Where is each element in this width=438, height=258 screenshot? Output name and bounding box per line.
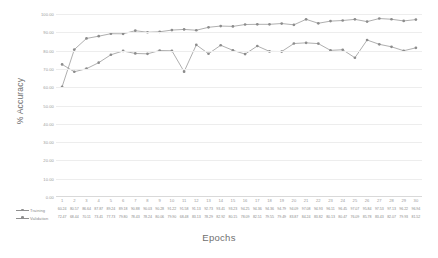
line-marker-icon — [16, 216, 29, 221]
data-point — [268, 23, 271, 26]
legend-label-training: Training — [30, 208, 45, 213]
data-point — [73, 70, 76, 73]
validation-line — [62, 40, 416, 72]
x-axis-tick-labels: 1234567891011121314151617181920212223242… — [56, 198, 422, 206]
table-cell: 82.51 — [253, 215, 262, 219]
table-cell: 95.84 — [363, 207, 372, 211]
x-tick-label: 29 — [401, 198, 406, 203]
table-cell: 92.73 — [204, 207, 213, 211]
table-cell: 96.45 — [338, 207, 347, 211]
data-point — [110, 53, 113, 56]
data-point — [317, 42, 320, 45]
table-cell: 79.90 — [168, 215, 177, 219]
data-point — [195, 29, 198, 32]
y-tick-label: 30.00 — [43, 140, 54, 145]
data-point — [305, 41, 308, 44]
y-tick-label: 70.00 — [43, 66, 54, 71]
x-tick-label: 19 — [279, 198, 284, 203]
y-tick-label: 20.00 — [43, 158, 54, 163]
y-tick-label: 60.00 — [43, 85, 54, 90]
table-row-validation: Validation 72.4768.4470.1173.4177.7379.8… — [16, 215, 422, 222]
y-axis-tick-labels: 100.0090.0080.0070.0060.0050.0040.0030.0… — [26, 14, 54, 197]
table-cell: 93.23 — [229, 207, 238, 211]
gridline — [56, 87, 422, 88]
table-cell: 89.24 — [107, 207, 116, 211]
data-point — [146, 52, 149, 55]
data-point — [354, 18, 357, 21]
table-cell: 83.87 — [290, 215, 299, 219]
x-tick-label: 20 — [292, 198, 297, 203]
table-cell: 97.53 — [375, 207, 384, 211]
gridline — [56, 106, 422, 107]
table-cell: 87.87 — [94, 207, 103, 211]
data-point — [305, 18, 308, 21]
data-point — [378, 17, 381, 20]
table-cell: 89.18 — [119, 207, 128, 211]
data-point — [390, 18, 393, 21]
gridline — [56, 51, 422, 52]
data-point — [378, 43, 381, 46]
table-row-training: Training 60.2480.5786.6487.8789.2489.189… — [16, 207, 422, 214]
table-cell: 79.93 — [399, 215, 408, 219]
training-line — [62, 19, 416, 87]
table-cell: 68.44 — [70, 215, 79, 219]
data-point — [171, 29, 174, 32]
table-cell: 83.43 — [375, 215, 384, 219]
table-cell: 94.79 — [277, 207, 286, 211]
x-tick-label: 15 — [231, 198, 236, 203]
data-point — [97, 61, 100, 64]
table-cell: 83.82 — [314, 215, 323, 219]
x-tick-label: 17 — [255, 198, 260, 203]
gridline — [56, 14, 422, 15]
data-point — [366, 20, 369, 23]
table-cell: 70.11 — [82, 215, 90, 219]
table-cell: 72.47 — [58, 215, 67, 219]
table-cell: 77.73 — [107, 215, 116, 219]
x-tick-label: 10 — [170, 198, 175, 203]
table-cell: 90.28 — [155, 207, 164, 211]
data-point — [256, 45, 259, 48]
table-cell: 79.55 — [265, 215, 274, 219]
table-cell: 94.36 — [253, 207, 262, 211]
data-point — [415, 18, 418, 21]
y-tick-label: 80.00 — [43, 48, 54, 53]
table-cell: 80.47 — [338, 215, 347, 219]
table-cell: 76.09 — [351, 215, 360, 219]
x-tick-label: 1 — [61, 198, 63, 203]
x-tick-label: 16 — [243, 198, 248, 203]
gridline — [56, 69, 422, 70]
table-cell: 96.11 — [326, 207, 334, 211]
x-tick-label: 8 — [146, 198, 148, 203]
x-tick-label: 11 — [182, 198, 186, 203]
data-point — [219, 44, 222, 47]
x-tick-label: 9 — [159, 198, 161, 203]
x-tick-label: 21 — [304, 198, 309, 203]
x-tick-label: 27 — [377, 198, 382, 203]
x-tick-label: 6 — [122, 198, 124, 203]
table-cell: 78.43 — [131, 215, 140, 219]
table-cell: 83.13 — [192, 215, 201, 219]
gridline — [56, 160, 422, 161]
table-cell: 97.07 — [351, 207, 360, 211]
line-marker-icon — [16, 208, 29, 213]
table-cell: 68.48 — [180, 215, 189, 219]
data-point — [85, 37, 88, 40]
table-cell: 84.24 — [302, 215, 311, 219]
data-point — [219, 25, 222, 28]
data-point — [293, 23, 296, 26]
table-cell: 82.07 — [387, 215, 396, 219]
y-tick-label: 50.00 — [43, 103, 54, 108]
data-point — [244, 23, 247, 26]
data-point — [317, 22, 320, 25]
data-point — [207, 52, 210, 55]
data-point — [402, 20, 405, 23]
data-point — [61, 63, 64, 66]
table-cell: 94.93 — [314, 207, 323, 211]
data-point — [366, 39, 369, 42]
data-point — [415, 46, 418, 49]
y-axis-title: % Accuracy — [15, 55, 25, 147]
data-point — [183, 70, 186, 73]
table-cell: 85.78 — [363, 215, 372, 219]
table-cell: 94.25 — [241, 207, 250, 211]
y-tick-label: 90.00 — [43, 30, 54, 35]
